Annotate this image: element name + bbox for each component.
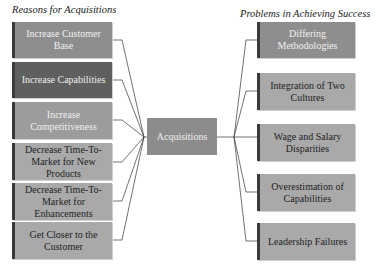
problem-wage-salary-disparities: Wage and Salary Disparities [257, 124, 355, 161]
center-acquisitions: Acquisitions [147, 118, 217, 155]
reason-increase-capabilities: Increase Capabilities [12, 62, 112, 98]
reason-increase-competitiveness: Increase Competitiveness [12, 102, 112, 139]
reason-get-closer-to-customer: Get Closer to the Customer [12, 222, 112, 259]
reason-decrease-ttm-new-products: Decrease Time-To-Market for New Products [12, 143, 112, 180]
problem-overestimation-capabilities: Overestimation of Capabilities [257, 174, 355, 211]
reason-increase-customer-base: Increase Customer Base [12, 22, 112, 58]
problem-differing-methodologies: Differing Methodologies [257, 22, 355, 58]
reason-decrease-ttm-enhancements: Decrease Time-To-Market for Enhancements [12, 183, 112, 220]
problem-integration-two-cultures: Integration of Two Cultures [257, 73, 355, 110]
problem-leadership-failures: Leadership Failures [257, 223, 355, 260]
